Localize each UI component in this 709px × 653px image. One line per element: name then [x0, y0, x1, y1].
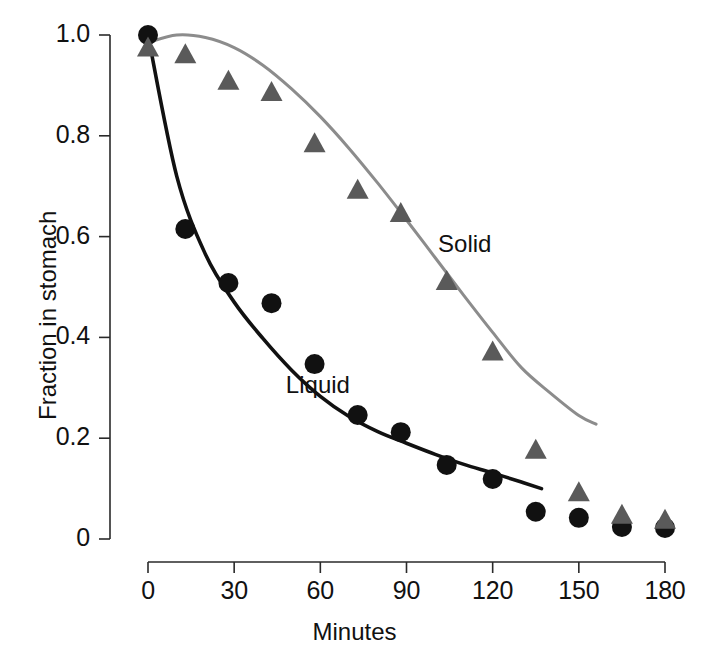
- marker-triangle-solid: [525, 439, 547, 459]
- y-tick-label: 1.0: [0, 19, 90, 48]
- marker-triangle-solid: [217, 70, 239, 90]
- marker-circle-liquid: [483, 469, 503, 489]
- y-axis: [99, 35, 110, 539]
- marker-circle-liquid: [218, 273, 238, 293]
- y-tick-label: 0: [0, 523, 90, 552]
- x-axis-title: Minutes: [0, 618, 709, 646]
- marker-triangle-solid: [347, 179, 369, 199]
- fit-curve-liquid: [148, 35, 541, 489]
- fit-curve-solid: [148, 35, 596, 424]
- marker-triangle-solid: [568, 481, 590, 501]
- x-tick-label: 90: [367, 576, 447, 605]
- marker-circle-liquid: [391, 422, 411, 442]
- y-tick-label: 0.2: [0, 422, 90, 451]
- marker-triangle-solid: [611, 504, 633, 524]
- x-tick-label: 0: [108, 576, 188, 605]
- marker-circle-liquid: [526, 502, 546, 522]
- marker-triangle-solid: [436, 270, 458, 290]
- plot-canvas: [0, 0, 709, 653]
- series-label-liquid: Liquid: [286, 371, 350, 399]
- y-tick-label: 0.8: [0, 120, 90, 149]
- x-tick-label: 180: [625, 576, 705, 605]
- chart-figure: 00.20.40.60.81.0 0306090120150180 Liquid…: [0, 0, 709, 653]
- marker-circle-liquid: [262, 293, 282, 313]
- marker-triangle-solid: [654, 509, 676, 529]
- marker-circle-liquid: [437, 455, 457, 475]
- marker-circle-liquid: [348, 405, 368, 425]
- x-tick-label: 60: [280, 576, 360, 605]
- x-tick-label: 30: [194, 576, 274, 605]
- marker-circle-liquid: [175, 219, 195, 239]
- x-axis: [148, 562, 665, 573]
- series-label-solid: Solid: [438, 230, 491, 258]
- x-tick-label: 150: [539, 576, 619, 605]
- x-tick-label: 120: [453, 576, 533, 605]
- data-markers: [137, 25, 676, 538]
- marker-triangle-solid: [174, 43, 196, 63]
- marker-triangle-solid: [304, 132, 326, 152]
- fit-curves: [148, 35, 596, 489]
- y-axis-title: Fraction in stomach: [34, 211, 62, 420]
- marker-triangle-solid: [261, 81, 283, 101]
- marker-circle-liquid: [569, 508, 589, 528]
